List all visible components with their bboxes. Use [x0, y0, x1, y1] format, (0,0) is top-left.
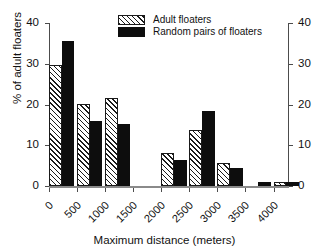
bar-random-pairs-of-floaters-1000: [118, 124, 131, 186]
y-tick-label-left-20: 20: [13, 98, 39, 110]
plot-area: 0010102020303040400500100015002000250030…: [49, 23, 289, 186]
y-tick-right-0: [289, 186, 293, 187]
y-tick-right-10: [289, 145, 293, 146]
figure: % of adult floaters Maximum distance (me…: [0, 0, 329, 248]
x-tick-3000: [217, 188, 218, 192]
y-tick-label-left-0: 0: [13, 179, 39, 191]
bar-random-pairs-of-floaters-2500: [202, 111, 215, 186]
y-tick-left-40: [45, 23, 49, 24]
x-tick-4000: [274, 188, 275, 192]
y-tick-label-left-30: 30: [13, 57, 39, 69]
bar-adult-floaters-3000: [217, 163, 230, 186]
x-tick-1500: [133, 188, 134, 192]
x-tick-0: [49, 188, 50, 192]
bar-adult-floaters-0: [49, 65, 62, 186]
bar-random-pairs-of-floaters-4000: [286, 182, 299, 186]
y-tick-label-right-30: 30: [298, 57, 324, 69]
x-tick-500: [77, 188, 78, 192]
y-tick-left-0: [45, 186, 49, 187]
bar-adult-floaters-4000: [274, 182, 287, 186]
y-tick-label-right-0: 0: [298, 179, 324, 191]
bar-adult-floaters-500: [77, 104, 90, 186]
y-tick-label-left-10: 10: [13, 138, 39, 150]
x-tick-2000: [161, 188, 162, 192]
y-tick-right-30: [289, 64, 293, 65]
bar-random-pairs-of-floaters-3500: [258, 182, 271, 186]
y-tick-label-right-20: 20: [298, 98, 324, 110]
x-tick-1000: [105, 188, 106, 192]
bar-adult-floaters-2000: [161, 153, 174, 186]
bar-random-pairs-of-floaters-3000: [230, 168, 243, 186]
bar-adult-floaters-2500: [189, 130, 202, 186]
y-tick-label-right-40: 40: [298, 16, 324, 28]
y-tick-right-20: [289, 105, 293, 106]
bar-random-pairs-of-floaters-2000: [174, 160, 187, 186]
x-tick-3500: [245, 188, 246, 192]
y-tick-label-right-10: 10: [298, 138, 324, 150]
bar-adult-floaters-1000: [105, 98, 118, 186]
x-axis-line: [49, 186, 289, 188]
bar-random-pairs-of-floaters-500: [90, 121, 103, 186]
x-tick-2500: [189, 188, 190, 192]
y-tick-label-left-40: 40: [13, 16, 39, 28]
y-tick-right-40: [289, 23, 293, 24]
bar-random-pairs-of-floaters-0: [62, 41, 75, 186]
